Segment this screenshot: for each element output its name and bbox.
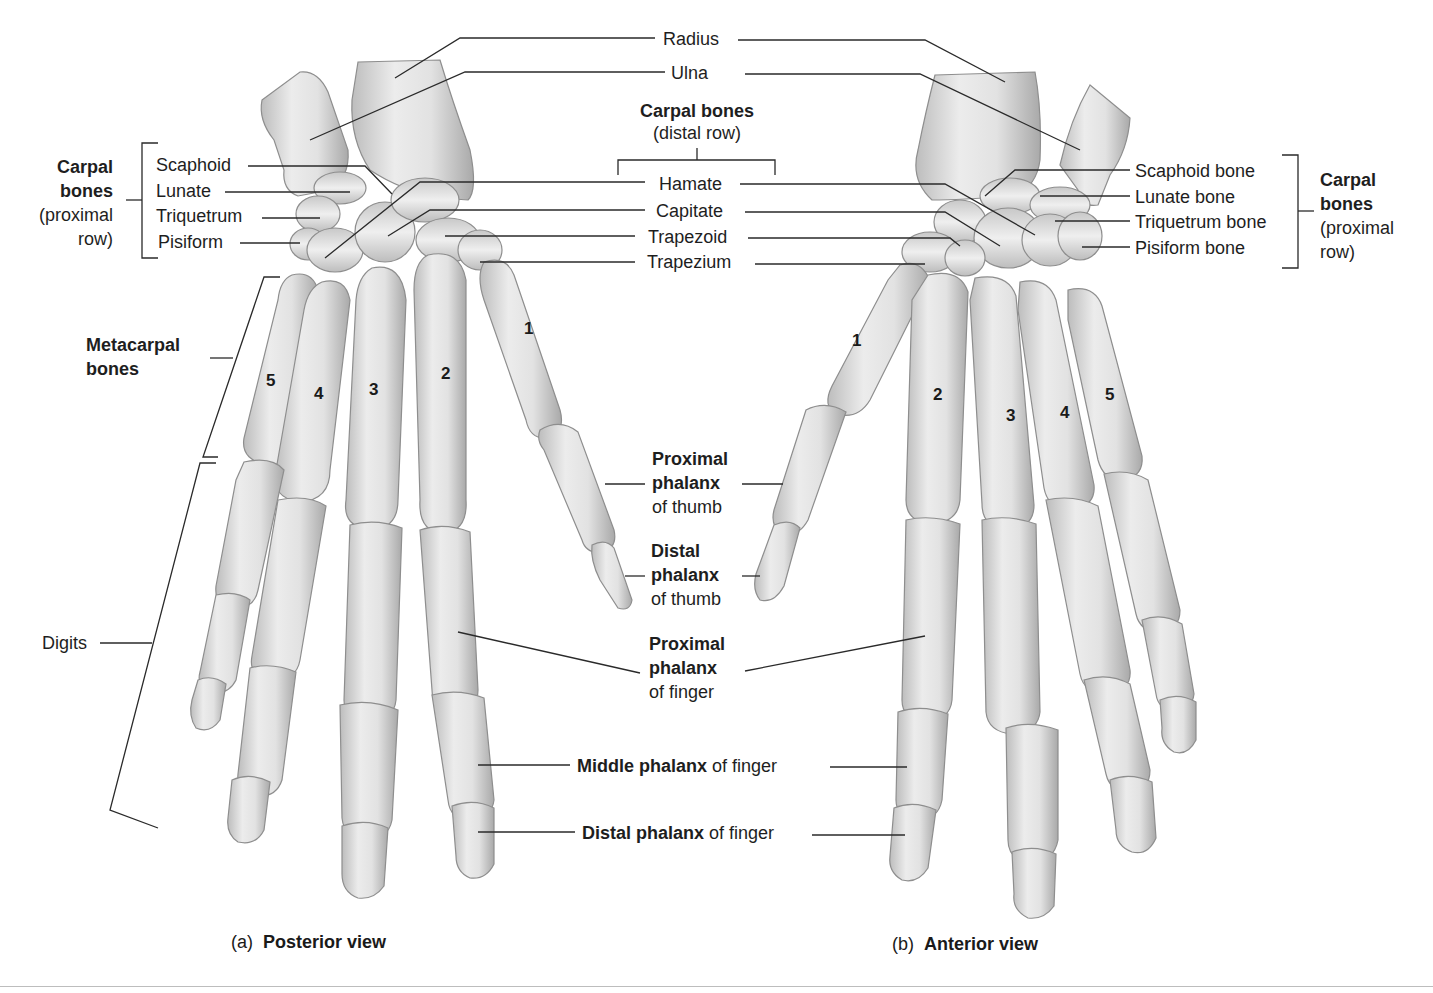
caption-a-letter: (a) [231, 932, 253, 952]
left-carpal-sub-2: row) [30, 229, 113, 250]
label-lunate-bone: Lunate bone [1135, 187, 1235, 208]
distal-phalanx-bold: Distal phalanx [582, 823, 704, 843]
right-carpal-sub-1: (proximal [1320, 218, 1394, 239]
prox-thumb-line3: of thumb [652, 497, 722, 518]
label-metacarpal-1: Metacarpal [86, 335, 180, 356]
label-distal-phalanx-finger: Distal phalanx of finger [582, 823, 774, 844]
anterior-metacarpal-number-2: 2 [933, 385, 942, 405]
bottom-divider [0, 986, 1433, 987]
right-carpal-sub-2: row) [1320, 242, 1355, 263]
anterior-metacarpal-number-4: 4 [1060, 403, 1069, 423]
prox-thumb-line2: phalanx [652, 473, 720, 494]
posterior-metacarpal-number-4: 4 [314, 384, 323, 404]
label-middle-phalanx-finger: Middle phalanx of finger [577, 756, 777, 777]
left-carpal-sub-1: (proximal [10, 205, 113, 226]
left-carpal-title-2: bones [30, 181, 113, 202]
anterior-metacarpal-number-1: 1 [852, 331, 861, 351]
prox-finger-line3: of finger [649, 682, 714, 703]
thumb-proximal-phalanx-anterior [773, 405, 846, 534]
label-capitate: Capitate [656, 201, 723, 222]
label-pisiform: Pisiform [158, 232, 223, 253]
caption-b-letter: (b) [892, 934, 914, 954]
label-scaphoid-bone: Scaphoid bone [1135, 161, 1255, 182]
left-carpal-title-1: Carpal [30, 157, 113, 178]
thumb-distal-phalanx-anterior [755, 522, 800, 601]
caption-posterior-view: (a) Posterior view [231, 932, 386, 953]
middle-phalanx-bold: Middle phalanx [577, 756, 707, 776]
label-radius: Radius [663, 29, 719, 50]
posterior-metacarpal-number-5: 5 [266, 371, 275, 391]
label-lunate: Lunate [156, 181, 211, 202]
posterior-metacarpal-number-1: 1 [524, 319, 533, 339]
label-triquetrum: Triquetrum [156, 206, 242, 227]
right-carpal-title-1: Carpal [1320, 170, 1376, 191]
anterior-metacarpal-number-3: 3 [1006, 406, 1015, 426]
dist-thumb-line1: Distal [651, 541, 700, 562]
thumb-proximal-phalanx-posterior [539, 424, 615, 552]
prox-thumb-line1: Proximal [652, 449, 728, 470]
label-hamate: Hamate [659, 174, 722, 195]
prox-finger-line2: phalanx [649, 658, 717, 679]
label-ulna: Ulna [671, 63, 708, 84]
label-metacarpal-2: bones [86, 359, 139, 380]
caption-a-title: Posterior view [263, 932, 386, 952]
right-carpal-title-2: bones [1320, 194, 1373, 215]
caption-b-title: Anterior view [924, 934, 1038, 954]
posterior-metacarpal-number-2: 2 [441, 364, 450, 384]
distal-phalanx-rest: of finger [704, 823, 774, 843]
posterior-metacarpal-number-3: 3 [369, 380, 378, 400]
caption-anterior-view: (b) Anterior view [892, 934, 1038, 955]
label-pisiform-bone: Pisiform bone [1135, 238, 1245, 259]
label-digits: Digits [42, 633, 87, 654]
label-scaphoid: Scaphoid [156, 155, 231, 176]
hand-bones-figure: Radius Ulna Carpal bones (distal row) Ha… [0, 0, 1433, 993]
dist-thumb-line2: phalanx [651, 565, 719, 586]
label-trapezoid: Trapezoid [648, 227, 727, 248]
label-triquetrum-bone: Triquetrum bone [1135, 212, 1266, 233]
label-trapezium: Trapezium [647, 252, 731, 273]
metacarpal-1-posterior [480, 260, 562, 438]
dist-thumb-line3: of thumb [651, 589, 721, 610]
metacarpal-2-posterior [414, 254, 466, 534]
prox-finger-line1: Proximal [649, 634, 725, 655]
anterior-metacarpal-number-5: 5 [1105, 385, 1114, 405]
middle-phalanx-rest: of finger [707, 756, 777, 776]
label-carpal-distal-title: Carpal bones [618, 101, 776, 122]
label-carpal-distal-sub: (distal row) [618, 123, 776, 144]
